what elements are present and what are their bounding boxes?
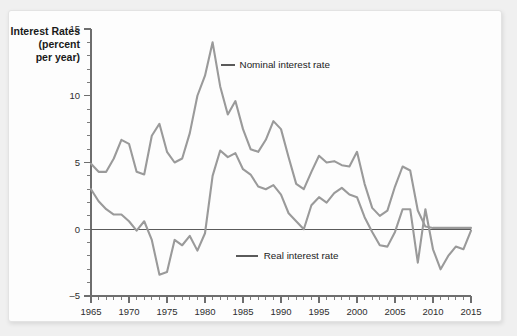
x-tick-label: 1990 (270, 306, 291, 317)
x-tick-label: 2005 (384, 306, 405, 317)
y-tick-label: 10 (69, 90, 80, 101)
x-tick-label: 1970 (118, 306, 139, 317)
x-tick-label: 2015 (460, 306, 481, 317)
interest-rates-line-chart: –505101519651970197519801985199019952000… (9, 11, 501, 321)
x-tick-label: 1995 (308, 306, 329, 317)
y-axis-title-line: per year) (36, 51, 80, 63)
data-series (91, 42, 471, 274)
y-axis-title-line: Interest Rates (11, 25, 81, 37)
y-tick-label: 0 (75, 224, 80, 235)
x-tick-label: 2010 (422, 306, 443, 317)
x-tick-label: 1985 (232, 306, 253, 317)
x-tick-label: 2000 (346, 306, 367, 317)
figure-card: –505101519651970197519801985199019952000… (8, 10, 502, 322)
x-tick-label: 1980 (194, 306, 215, 317)
chart-container: –505101519651970197519801985199019952000… (9, 11, 501, 321)
y-axis-title-line: (percent (39, 38, 81, 50)
real-annotation-label: Real interest rate (264, 250, 339, 261)
y-tick-label: 5 (75, 157, 80, 168)
x-tick-label: 1975 (156, 306, 177, 317)
x-tick-label: 1965 (80, 306, 101, 317)
nominal-annotation-label: Nominal interest rate (240, 59, 331, 70)
y-tick-label: –5 (69, 290, 80, 301)
